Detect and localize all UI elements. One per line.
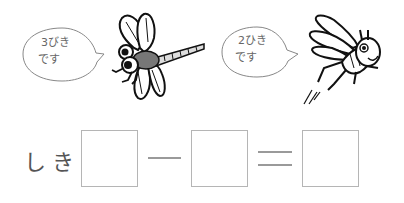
equation-label: しき <box>24 144 80 176</box>
bubble-1-line1: 3びき <box>38 34 70 51</box>
bubble-2-line1: 2ひき <box>235 32 267 49</box>
answer-box-3[interactable] <box>302 130 359 187</box>
equals-sign-top <box>258 151 292 153</box>
grasshopper-illustration <box>298 10 390 108</box>
bubble-1-text: 3びき です <box>38 34 70 68</box>
equals-sign-bottom <box>258 164 292 166</box>
bubble-2-line2: です <box>235 49 267 66</box>
dragonfly-illustration <box>104 8 206 104</box>
answer-box-2[interactable] <box>191 130 248 187</box>
bubble-1-line2: です <box>38 51 70 68</box>
bubble-2-text: 2ひき です <box>235 32 267 66</box>
answer-box-1[interactable] <box>81 130 138 187</box>
minus-sign <box>148 157 181 159</box>
